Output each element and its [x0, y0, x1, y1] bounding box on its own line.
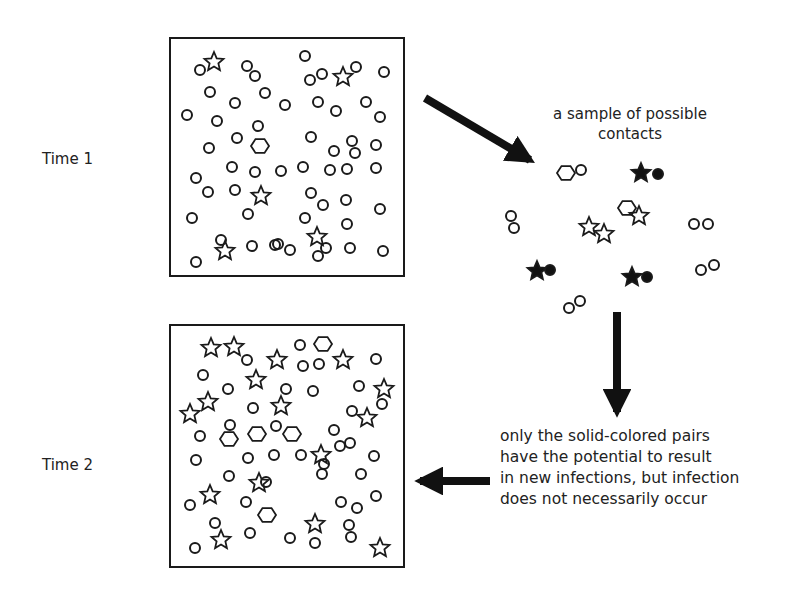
star-icon — [630, 206, 649, 224]
circle-icon — [227, 162, 237, 172]
circle-icon — [204, 143, 214, 153]
circle-icon — [281, 384, 291, 394]
solid-star-icon — [623, 267, 642, 285]
hexagon-icon — [248, 427, 266, 441]
circle-icon — [203, 187, 213, 197]
circle-icon — [331, 106, 341, 116]
circle-icon — [285, 533, 295, 543]
circle-icon — [352, 503, 362, 513]
circle-icon — [310, 538, 320, 548]
sample-contacts-cluster — [506, 163, 719, 313]
circle-icon — [313, 97, 323, 107]
circle-icon — [356, 469, 366, 479]
circle-icon — [371, 491, 381, 501]
result-caption-line-2: have the potential to result — [500, 447, 800, 468]
star-icon — [205, 52, 224, 70]
circle-icon — [317, 469, 327, 479]
star-icon — [199, 392, 218, 410]
hexagon-icon — [283, 427, 301, 441]
star-icon — [334, 350, 353, 368]
solid-circle-icon — [545, 265, 555, 275]
solid-circle-icon — [653, 169, 663, 179]
sample-caption-line-1: a sample of possible — [540, 104, 720, 124]
circle-icon — [296, 450, 306, 460]
circle-icon — [375, 204, 385, 214]
circle-icon — [696, 265, 706, 275]
circle-icon — [271, 421, 281, 431]
star-icon — [268, 350, 287, 368]
circle-icon — [336, 497, 346, 507]
circle-icon — [187, 213, 197, 223]
circle-icon — [250, 71, 260, 81]
circle-icon — [341, 195, 351, 205]
circle-icon — [230, 185, 240, 195]
star-icon — [272, 396, 291, 414]
circle-icon — [361, 97, 371, 107]
circle-icon — [243, 453, 253, 463]
circle-icon — [191, 455, 201, 465]
time2-population-box — [170, 325, 404, 567]
circle-icon — [205, 87, 215, 97]
solid-star-icon — [632, 163, 651, 181]
star-icon — [308, 227, 327, 245]
time1-label: Time 1 — [42, 150, 93, 168]
circle-icon — [250, 167, 260, 177]
star-icon — [358, 408, 377, 426]
time1-population-box — [170, 38, 404, 276]
circle-icon — [243, 209, 253, 219]
hexagon-icon — [557, 166, 575, 180]
circle-icon — [195, 431, 205, 441]
hexagon-icon — [258, 508, 276, 522]
circle-icon — [198, 370, 208, 380]
circle-icon — [306, 188, 316, 198]
circle-icon — [329, 425, 339, 435]
circle-icon — [245, 528, 255, 538]
star-icon — [252, 186, 271, 204]
circle-icon — [369, 451, 379, 461]
circle-icon — [308, 386, 318, 396]
circle-icon — [225, 420, 235, 430]
circle-icon — [350, 148, 360, 158]
hexagon-icon — [314, 337, 332, 351]
circle-icon — [185, 500, 195, 510]
circle-icon — [190, 543, 200, 553]
circle-icon — [347, 136, 357, 146]
star-icon — [202, 338, 221, 356]
sample-caption: a sample of possible contacts — [540, 104, 720, 144]
star-icon — [212, 530, 231, 548]
circle-icon — [298, 361, 308, 371]
circle-icon — [351, 62, 361, 72]
circle-icon — [379, 67, 389, 77]
solid-star-icon — [528, 261, 547, 279]
solid-circle-icon — [642, 272, 652, 282]
circle-icon — [345, 438, 355, 448]
result-caption-line-3: in new infections, but infection — [500, 468, 800, 489]
circle-icon — [371, 163, 381, 173]
circle-icon — [298, 162, 308, 172]
circle-icon — [703, 219, 713, 229]
circle-icon — [300, 51, 310, 61]
flow-arrows — [420, 98, 617, 481]
circle-icon — [509, 223, 519, 233]
circle-icon — [314, 359, 324, 369]
circle-icon — [506, 211, 516, 221]
circle-icon — [230, 98, 240, 108]
circle-icon — [247, 241, 257, 251]
circle-icon — [335, 441, 345, 451]
circle-icon — [575, 296, 585, 306]
circle-icon — [306, 132, 316, 142]
circle-icon — [342, 164, 352, 174]
circle-icon — [191, 173, 201, 183]
result-caption-line-4: does not necessarily occur — [500, 489, 800, 510]
star-icon — [306, 514, 325, 532]
result-caption-line-1: only the solid-colored pairs — [500, 426, 800, 447]
circle-icon — [313, 251, 323, 261]
hexagon-icon — [251, 139, 269, 153]
circle-icon — [212, 116, 222, 126]
circle-icon — [378, 246, 388, 256]
star-icon — [371, 538, 390, 556]
time2-label: Time 2 — [42, 456, 93, 474]
circle-icon — [345, 243, 355, 253]
circle-icon — [709, 260, 719, 270]
population-frame — [170, 325, 404, 567]
